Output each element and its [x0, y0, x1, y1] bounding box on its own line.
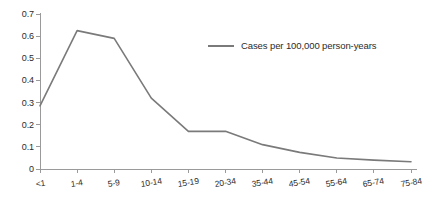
y-axis-tick-label: 0.3: [8, 98, 34, 108]
line-chart: 00.10.20.30.40.50.60.7 <11-45-910-1415-1…: [0, 0, 425, 205]
y-axis-tick-label: 0: [8, 164, 34, 174]
legend-line-swatch: [208, 45, 234, 47]
y-axis-tick-label: 0.7: [8, 9, 34, 19]
x-axis-tick-label: 1-4: [70, 177, 83, 189]
legend-entry-label: Cases per 100,000 person-years: [241, 40, 376, 51]
x-axis-tick-label: <1: [35, 178, 46, 189]
y-axis-tick-label: 0.2: [8, 120, 34, 130]
x-axis-tick-label: 5-9: [107, 177, 120, 189]
y-axis-tick-label: 0.6: [8, 31, 34, 41]
chart-legend: Cases per 100,000 person-years: [208, 40, 376, 51]
y-axis-tick-label: 0.1: [8, 142, 34, 152]
y-axis-tick-label: 0.4: [8, 75, 34, 85]
chart-plot-area: [0, 0, 425, 205]
chart-axes: [36, 13, 417, 173]
y-axis-tick-label: 0.5: [8, 53, 34, 63]
